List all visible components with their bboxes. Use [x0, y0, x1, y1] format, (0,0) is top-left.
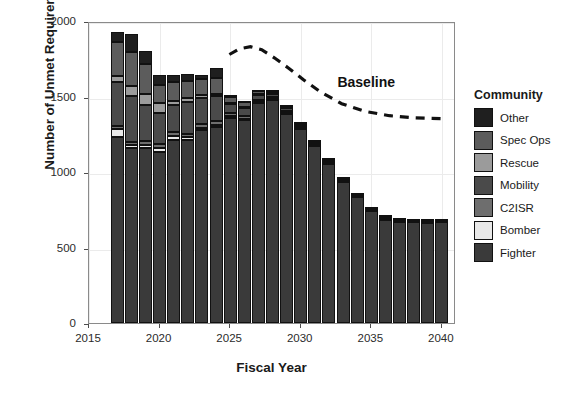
- bar-segment: [181, 102, 194, 134]
- legend-item-rescue[interactable]: Rescue: [466, 152, 578, 173]
- x-axis-tick: [159, 324, 160, 328]
- bar-stack: [308, 22, 321, 323]
- bar-segment: [308, 144, 321, 146]
- y-axis-tick-label: 2000: [30, 15, 76, 27]
- bar-segment: [125, 145, 138, 148]
- legend-item-other[interactable]: Other: [466, 107, 578, 128]
- bar-segment: [224, 103, 237, 105]
- bar-segment: [111, 76, 124, 82]
- x-axis-tick: [229, 324, 230, 328]
- bar-segment: [266, 97, 279, 99]
- x-axis-tick-label: 2015: [65, 332, 111, 344]
- bar-segment: [365, 207, 378, 209]
- bar-segment: [167, 136, 180, 139]
- x-axis-tick: [370, 324, 371, 328]
- bar-segment: [167, 75, 180, 82]
- bar-stack: [280, 22, 293, 323]
- bar-segment: [407, 222, 420, 323]
- bar-segment: [181, 98, 194, 102]
- bar-segment: [435, 219, 448, 221]
- bar-segment: [252, 100, 265, 102]
- x-axis-tick-label: 2035: [347, 332, 393, 344]
- bar-segment: [111, 42, 124, 76]
- bar-segment: [266, 93, 279, 95]
- bar-segment: [379, 219, 392, 323]
- legend-item-spec-ops[interactable]: Spec Ops: [466, 130, 578, 151]
- bar-segment: [195, 95, 208, 98]
- bar-stack: [407, 22, 420, 323]
- bar-stack: [351, 22, 364, 323]
- bar-segment: [153, 113, 166, 144]
- bar-segment: [210, 127, 223, 323]
- legend-swatch: [474, 243, 493, 262]
- legend-item-c2isr[interactable]: C2ISR: [466, 197, 578, 218]
- bar-stack: [252, 22, 265, 323]
- bar-segment: [210, 121, 223, 124]
- bar-segment: [238, 120, 251, 323]
- bar-segment: [294, 122, 307, 124]
- chart-figure: Number of Unmet Requirements Baseline 05…: [0, 0, 578, 393]
- bar-segment: [125, 148, 138, 323]
- legend-swatch: [474, 198, 493, 217]
- legend-item-fighter[interactable]: Fighter: [466, 242, 578, 263]
- bar-stack: [294, 22, 307, 323]
- bar-segment: [238, 108, 251, 116]
- bar-segment: [195, 128, 208, 130]
- bar-segment: [210, 78, 223, 94]
- x-axis-tick-label: 2030: [277, 332, 323, 344]
- bar-segment: [153, 144, 166, 149]
- bar-segment: [153, 85, 166, 103]
- bar-segment: [125, 34, 138, 52]
- bar-segment: [153, 103, 166, 113]
- plot-panel: Baseline: [88, 22, 455, 324]
- bar-segment: [224, 116, 237, 118]
- y-axis-tick-label: 500: [30, 242, 76, 254]
- bar-stack: [393, 22, 406, 323]
- bar-segment: [322, 163, 335, 323]
- bar-stack: [210, 22, 223, 323]
- bar-segment: [379, 215, 392, 217]
- bar-segment: [308, 140, 321, 142]
- legend-item-bomber[interactable]: Bomber: [466, 220, 578, 241]
- legend-swatch: [474, 131, 493, 150]
- bar-segment: [266, 99, 279, 101]
- bar-segment: [393, 221, 406, 323]
- baseline-label: Baseline: [337, 74, 395, 90]
- bar-segment: [139, 145, 152, 148]
- legend-swatch: [474, 221, 493, 240]
- bar-segment: [125, 86, 138, 95]
- bar-segment: [252, 94, 265, 96]
- legend-item-label: Mobility: [500, 179, 539, 191]
- legend-item-label: Bomber: [500, 224, 540, 236]
- bar-segment: [195, 130, 208, 323]
- bar-segment: [167, 101, 180, 106]
- legend-item-label: Spec Ops: [500, 134, 551, 146]
- bar-segment: [210, 94, 223, 96]
- bar-segment: [421, 219, 434, 221]
- bar-segment: [167, 140, 180, 323]
- bar-segment: [167, 105, 180, 132]
- legend-item-mobility[interactable]: Mobility: [466, 175, 578, 196]
- y-axis-tick: [84, 249, 88, 250]
- y-axis-tick: [84, 98, 88, 99]
- bar-segment: [337, 177, 350, 179]
- bar-segment: [238, 101, 251, 103]
- bar-segment: [280, 111, 293, 113]
- y-axis-tick: [84, 22, 88, 23]
- bar-segment: [308, 145, 321, 323]
- bar-segment: [224, 97, 237, 103]
- bar-segment: [294, 127, 307, 129]
- bar-stack: [379, 22, 392, 323]
- bar-stack: [153, 22, 166, 323]
- bar-segment: [195, 124, 208, 127]
- bar-segment: [210, 125, 223, 127]
- bar-segment: [153, 152, 166, 323]
- bar-stack: [238, 22, 251, 323]
- bar-stack: [435, 22, 448, 323]
- gridline-vertical: [89, 23, 90, 323]
- bar-segment: [351, 196, 364, 323]
- bar-segment: [181, 140, 194, 323]
- bar-stack: [181, 22, 194, 323]
- bar-segment: [407, 219, 420, 221]
- x-axis-title: Fiscal Year: [88, 360, 455, 375]
